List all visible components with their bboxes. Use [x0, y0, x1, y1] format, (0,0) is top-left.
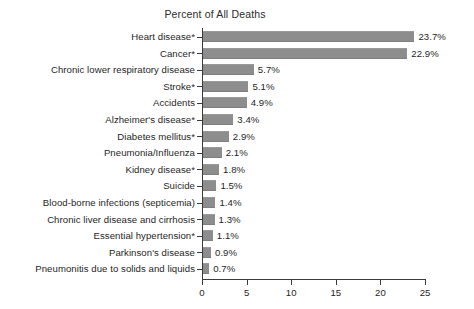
x-axis-tick-label: 20 [375, 286, 386, 299]
y-axis-tick [197, 70, 202, 71]
value-label: 0.7% [213, 262, 235, 276]
y-axis-tick [197, 136, 202, 137]
category-label: Parkinson's disease [109, 246, 195, 260]
bar-row: Chronic liver disease and cirrhosis1.3% [202, 212, 425, 228]
bar-row: Cancer*22.9% [202, 46, 425, 62]
category-label: Diabetes mellitus* [117, 130, 195, 144]
bar [203, 97, 247, 108]
value-label: 1.8% [223, 163, 245, 177]
chart-title: Percent of All Deaths [0, 8, 430, 20]
value-label: 5.1% [252, 80, 274, 94]
value-label: 1.4% [219, 196, 241, 210]
x-axis-tick [380, 280, 381, 285]
category-label: Accidents [153, 96, 195, 110]
bar-row: Accidents4.9% [202, 95, 425, 111]
x-axis-tick-label: 5 [244, 286, 249, 299]
value-label: 5.7% [258, 63, 280, 77]
bar-row: Kidney disease*1.8% [202, 162, 425, 178]
y-axis-tick [197, 186, 202, 187]
x-axis-tick [425, 280, 426, 285]
category-label: Heart disease* [131, 30, 195, 44]
category-label: Pneumonitis due to solids and liquids [35, 262, 195, 276]
value-label: 3.4% [237, 113, 259, 127]
category-label: Pneumonia/Influenza [104, 146, 195, 160]
category-label: Kidney disease* [125, 163, 195, 177]
bar-row: Diabetes mellitus*2.9% [202, 129, 425, 145]
value-label: 4.9% [251, 96, 273, 110]
y-axis-tick [197, 53, 202, 54]
value-label: 2.1% [226, 146, 248, 160]
x-axis-tick-label: 25 [420, 286, 431, 299]
y-axis-tick [197, 203, 202, 204]
x-axis-tick [336, 280, 337, 285]
category-label: Alzheimer's disease* [105, 113, 195, 127]
category-label: Chronic liver disease and cirrhosis [47, 213, 195, 227]
category-label: Essential hypertension* [94, 229, 195, 243]
y-axis-tick [197, 86, 202, 87]
category-label: Stroke* [163, 80, 195, 94]
bar [203, 180, 216, 191]
bar-row: Chronic lower respiratory disease5.7% [202, 62, 425, 78]
value-label: 1.3% [219, 213, 241, 227]
category-label: Suicide [163, 179, 195, 193]
value-label: 0.9% [215, 246, 237, 260]
x-axis-tick [247, 280, 248, 285]
y-axis-tick [197, 37, 202, 38]
y-axis-tick [197, 103, 202, 104]
bar-row: Parkinson's disease0.9% [202, 245, 425, 261]
bar-row: Pneumonitis due to solids and liquids0.7… [202, 261, 425, 277]
category-label: Cancer* [160, 47, 195, 61]
x-axis-tick-label: 10 [286, 286, 297, 299]
y-axis-tick [197, 236, 202, 237]
bar [203, 48, 407, 59]
bar [203, 214, 215, 225]
bar [203, 81, 248, 92]
bar-row: Pneumonia/Influenza2.1% [202, 145, 425, 161]
x-axis-tick [202, 280, 203, 285]
bar-row: Blood-borne infections (septicemia)1.4% [202, 195, 425, 211]
y-axis-tick [197, 219, 202, 220]
y-axis-tick [197, 120, 202, 121]
bar-row: Essential hypertension*1.1% [202, 228, 425, 244]
bar [203, 147, 222, 158]
value-label: 1.1% [217, 229, 239, 243]
x-axis-tick [291, 280, 292, 285]
value-label: 22.9% [411, 47, 438, 61]
bar-row: Heart disease*23.7% [202, 29, 425, 45]
x-axis-line [202, 279, 426, 280]
value-label: 2.9% [233, 130, 255, 144]
y-axis-tick [197, 252, 202, 253]
category-label: Chronic lower respiratory disease [51, 63, 195, 77]
plot-area: Heart disease*23.7%Cancer*22.9%Chronic l… [202, 28, 425, 278]
bar [203, 263, 209, 274]
bar [203, 114, 233, 125]
bar [203, 230, 213, 241]
bar [203, 31, 414, 42]
value-label: 23.7% [418, 30, 445, 44]
bar [203, 247, 211, 258]
bar [203, 197, 215, 208]
bar [203, 64, 254, 75]
y-axis-tick [197, 153, 202, 154]
bar [203, 131, 229, 142]
bar-row: Alzheimer's disease*3.4% [202, 112, 425, 128]
bar-row: Stroke*5.1% [202, 79, 425, 95]
value-label: 1.5% [220, 179, 242, 193]
category-label: Blood-borne infections (septicemia) [43, 196, 195, 210]
x-axis-tick-label: 0 [199, 286, 204, 299]
y-axis-tick [197, 169, 202, 170]
bar [203, 164, 219, 175]
bar-row: Suicide1.5% [202, 178, 425, 194]
bar-chart: Percent of All Deaths Heart disease*23.7… [0, 0, 474, 309]
x-axis-tick-label: 15 [330, 286, 341, 299]
y-axis-tick [197, 269, 202, 270]
